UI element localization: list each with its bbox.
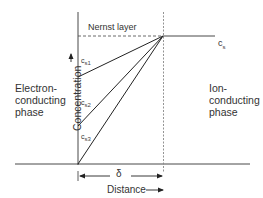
distance-axis-label: Distance bbox=[107, 184, 146, 196]
concentration-axis-label: Concentration bbox=[71, 66, 83, 131]
electron-phase-line3: phase bbox=[15, 106, 66, 118]
bulk-sub: s bbox=[223, 44, 226, 50]
electron-phase-line2: conducting bbox=[15, 94, 66, 106]
electron-phase-line1: Electron- bbox=[15, 82, 66, 94]
bulk-concentration-label: cs bbox=[218, 37, 226, 53]
ion-phase-line2: conducting bbox=[209, 94, 260, 106]
profile-2 bbox=[78, 36, 163, 126]
delta-label: δ bbox=[116, 168, 122, 180]
profile-3-label: cs3 bbox=[81, 131, 91, 145]
cs2-sub: s2 bbox=[85, 102, 91, 108]
ion-phase-line1: Ion- bbox=[209, 82, 260, 94]
nernst-layer-label: Nernst layer bbox=[88, 21, 137, 33]
cs3-sub: s3 bbox=[85, 136, 91, 142]
electron-phase-label: Electron- conducting phase bbox=[15, 82, 66, 118]
ion-phase-label: Ion- conducting phase bbox=[209, 82, 260, 118]
ion-phase-line3: phase bbox=[209, 106, 260, 118]
cs1-sub: s1 bbox=[85, 60, 91, 66]
